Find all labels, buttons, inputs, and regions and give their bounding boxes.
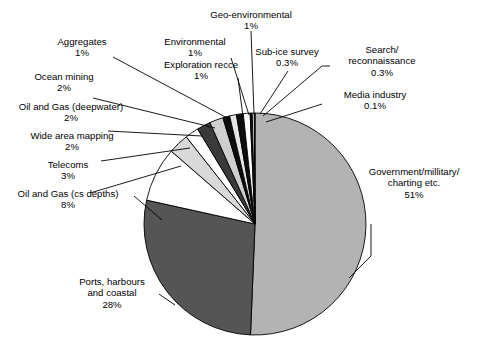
label-government-charting-pct: 51% <box>355 189 473 200</box>
label-oilgas-cs-depths: Oil and Gas (cs depths) 8% <box>4 188 132 211</box>
label-wide-area-mapping-title: Wide area mapping <box>16 130 128 141</box>
label-government-charting-title: Government/millitary/ <box>355 166 473 177</box>
pie-chart-figure: Aggregates 1% Environmental 1% Geo-envir… <box>0 0 480 356</box>
label-telecoms-title: Telecoms <box>24 159 112 170</box>
label-oilgas-cs-depths-title: Oil and Gas (cs depths) <box>4 188 132 199</box>
label-exploration-recce: Exploration recce 1% <box>146 59 256 82</box>
label-geo-environmental-pct: 1% <box>190 20 312 31</box>
label-ocean-mining-pct: 2% <box>18 82 110 93</box>
label-ocean-mining: Ocean mining 2% <box>18 71 110 94</box>
label-media-industry: Media industry 0.1% <box>323 89 427 112</box>
label-search-reconnaissance-title: Search/ <box>332 44 432 55</box>
label-geo-environmental: Geo-environmental 1% <box>190 9 312 32</box>
label-geo-environmental-title: Geo-environmental <box>190 9 312 20</box>
label-wide-area-mapping-pct: 2% <box>16 141 128 152</box>
label-government-charting: Government/millitary/ charting etc. 51% <box>355 166 473 200</box>
pie-slice[interactable] <box>251 113 366 335</box>
label-telecoms: Telecoms 3% <box>24 159 112 182</box>
label-subice-survey-title: Sub-ice survey <box>241 46 333 57</box>
label-search-reconnaissance-pct: 0.3% <box>332 67 432 78</box>
label-exploration-recce-pct: 1% <box>146 70 256 81</box>
label-wide-area-mapping: Wide area mapping 2% <box>16 130 128 153</box>
label-oilgas-cs-depths-pct: 8% <box>4 199 132 210</box>
label-environmental-title: Environmental <box>151 36 239 47</box>
label-search-reconnaissance: Search/ reconnaissance 0.3% <box>332 44 432 78</box>
label-oilgas-deepwater: Oil and Gas (deepwater) 2% <box>6 101 136 124</box>
label-ports-harbours-title: Ports, harbours <box>62 276 162 287</box>
label-ocean-mining-title: Ocean mining <box>18 71 110 82</box>
label-ports-harbours: Ports, harbours and coastal 28% <box>62 276 162 310</box>
label-aggregates: Aggregates 1% <box>40 36 124 59</box>
label-aggregates-pct: 1% <box>40 47 124 58</box>
pie-slices-group <box>144 113 366 335</box>
label-oilgas-deepwater-title: Oil and Gas (deepwater) <box>6 101 136 112</box>
label-aggregates-title: Aggregates <box>40 36 124 47</box>
label-ports-harbours-title2: and coastal <box>62 287 162 298</box>
label-oilgas-deepwater-pct: 2% <box>6 112 136 123</box>
label-search-reconnaissance-title2: reconnaissance <box>332 55 432 66</box>
label-media-industry-title: Media industry <box>323 89 427 100</box>
leader-line-subice <box>260 71 288 114</box>
label-telecoms-pct: 3% <box>24 170 112 181</box>
label-media-industry-pct: 0.1% <box>323 100 427 111</box>
label-environmental: Environmental 1% <box>151 36 239 59</box>
label-ports-harbours-pct: 28% <box>62 299 162 310</box>
label-government-charting-title2: charting etc. <box>355 177 473 188</box>
label-exploration-recce-title: Exploration recce <box>146 59 256 70</box>
leader-line-search <box>263 66 330 116</box>
label-environmental-pct: 1% <box>151 47 239 58</box>
